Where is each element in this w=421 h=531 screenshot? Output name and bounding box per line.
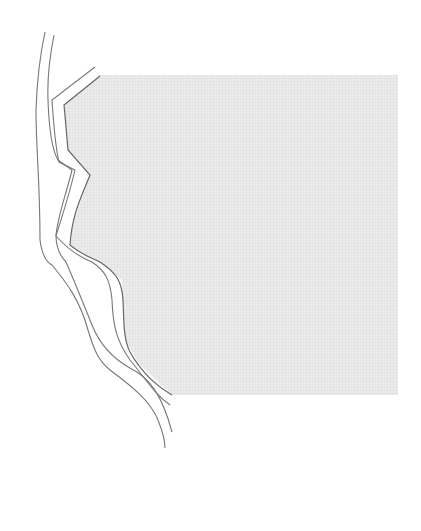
shaded-land-area [64,75,398,395]
coastline-map [0,0,421,531]
map-canvas [0,0,421,531]
